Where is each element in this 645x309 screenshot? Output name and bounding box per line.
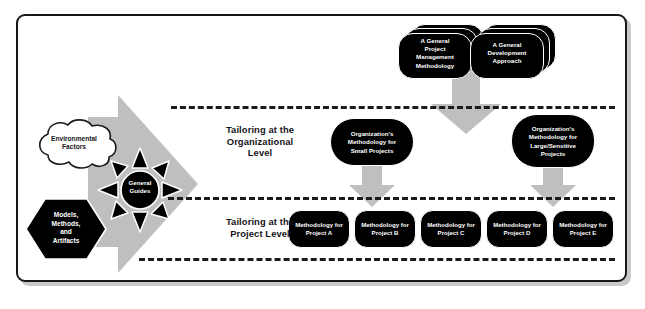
band-label-organizational: Tailoring at the Organizational Level [196,124,324,159]
oml-line3: Large/Sensitive [512,142,594,150]
diagram-canvas: Tailoring at the Organizational Level Ta… [0,0,645,309]
band-label-organizational-line1: Tailoring at the [196,124,324,136]
general-development-approach-stack: A General Development Approach [470,24,556,80]
general-development-approach-label: A General Development Approach [470,41,544,66]
gpmm-line3: Management [398,53,472,61]
mpc-line2: Project C [421,229,481,237]
oms-line1: Organization's [331,130,413,138]
band-label-organizational-line3: Level [196,147,324,159]
methodology-project-e-label: Methodology for Project E [553,221,613,237]
methodology-project-d: Methodology for Project D [486,210,548,248]
methodology-project-b: Methodology for Project B [354,210,416,248]
mpc-line1: Methodology for [421,221,481,229]
org-methodology-large-sensitive-projects: Organization's Methodology for Large/Sen… [511,114,595,168]
gpmm-line2: Project [398,45,472,53]
oms-line2: Methodology for [331,138,413,146]
band-label-project-line2: Project Level [196,228,324,240]
band-label-project-line1: Tailoring at the [196,216,324,228]
models-line3: and [25,228,107,237]
environmental-factors-line1: Environmental [26,135,122,143]
methodology-project-e: Methodology for Project E [552,210,614,248]
gpmm-line1: A General [398,37,472,45]
oms-line3: Small Projects [331,147,413,155]
methodology-project-c: Methodology for Project C [420,210,482,248]
org-methodology-small-projects-label: Organization's Methodology for Small Pro… [331,130,413,155]
general-guides-label: General Guides [118,179,162,194]
mpd-line2: Project D [487,229,547,237]
mpe-line1: Methodology for [553,221,613,229]
models-methods-artifacts-label: Models, Methods, and Artifacts [25,211,107,245]
divider-bottom [139,258,615,261]
gda-line1: A General [470,41,544,49]
org-methodology-small-projects: Organization's Methodology for Small Pro… [330,118,414,166]
divider-top [171,106,615,109]
band-label-organizational-line2: Organizational [196,136,324,148]
gda-line2: Development [470,49,544,57]
gda-line3: Approach [470,57,544,65]
gpmm-line4: Methodology [398,62,472,70]
mpb-line2: Project B [355,229,415,237]
org-methodology-large-sensitive-projects-label: Organization's Methodology for Large/Sen… [512,125,594,159]
band-label-project: Tailoring at the Project Level [196,216,324,239]
small-projects-to-project-level-arrow [348,160,396,208]
methodology-project-b-label: Methodology for Project B [355,221,415,237]
oml-line4: Projects [512,150,594,158]
mpb-line1: Methodology for [355,221,415,229]
general-guides-line1: General [118,179,162,187]
general-guides-line2: Guides [118,187,162,195]
general-guides-starburst: General Guides [96,146,184,234]
oml-line1: Organization's [512,125,594,133]
models-line2: Methods, [25,220,107,229]
models-methods-artifacts-hexagon: Models, Methods, and Artifacts [25,198,107,260]
models-line4: Artifacts [25,237,107,246]
methodology-project-d-label: Methodology for Project D [487,221,547,237]
general-project-management-methodology-label: A General Project Management Methodology [398,37,472,70]
divider-middle [168,197,615,200]
mpe-line2: Project E [553,229,613,237]
oml-line2: Methodology for [512,133,594,141]
models-line1: Models, [25,211,107,220]
mpd-line1: Methodology for [487,221,547,229]
methodology-project-c-label: Methodology for Project C [421,221,481,237]
